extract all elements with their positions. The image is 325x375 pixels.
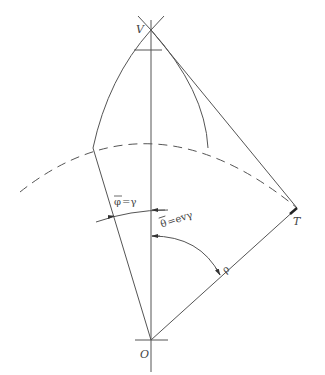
theta-angle-arc [152,236,220,275]
v-t-line [151,30,297,208]
phi-angle-arc [96,210,168,222]
diagram-canvas: V O T ρ φ =γ θ =evγ [0,0,325,375]
theta-arrow-bottom [216,268,220,275]
theta-label-group: θ =evγ [159,208,194,230]
label-t: T [293,215,302,228]
label-v: V [136,23,145,36]
dashed-circle-arc [20,144,297,208]
label-phi: φ [114,196,121,207]
apex-cross-right [151,16,164,30]
o-t-radius-line [151,208,297,340]
left-curve [93,30,151,148]
label-o: O [140,348,149,361]
label-phi-eq: =γ [122,196,136,207]
left-generator-line [93,148,151,340]
label-theta-eq: =evγ [166,209,194,227]
t-marker [290,208,297,214]
